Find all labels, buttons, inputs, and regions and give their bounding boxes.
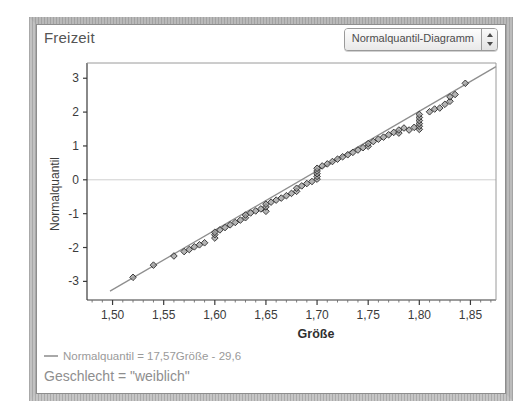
chart-type-selected-value: Normalquantil-Diagramm	[345, 29, 481, 50]
chart-type-select[interactable]: Normalquantil-Diagramm	[344, 28, 498, 51]
y-axis-tick-labels: 3210-1-2-3	[68, 71, 79, 288]
triangle-down-icon	[487, 42, 493, 46]
svg-text:-2: -2	[68, 241, 79, 255]
svg-text:1,65: 1,65	[254, 308, 278, 322]
y-axis-title: Normalquantil	[48, 157, 62, 231]
legend-equation-label: Normalquantil = 17,57Größe - 29,6	[63, 350, 241, 362]
svg-text:-3: -3	[68, 274, 79, 288]
svg-text:1,80: 1,80	[408, 308, 432, 322]
page-title: Freizeit	[44, 29, 95, 46]
svg-text:1,55: 1,55	[152, 308, 176, 322]
svg-text:0: 0	[72, 173, 79, 187]
svg-text:1,60: 1,60	[203, 308, 227, 322]
legend-line-swatch	[44, 355, 58, 357]
plot-frame	[87, 63, 496, 300]
group-annotation-label: Geschlecht = "weiblich"	[44, 368, 190, 384]
svg-text:3: 3	[72, 71, 79, 85]
x-axis-tick-labels: 1,501,551,601,651,701,751,801,85	[101, 308, 483, 322]
svg-text:-1: -1	[68, 207, 79, 221]
fit-line	[110, 67, 496, 292]
chart-type-stepper[interactable]	[481, 29, 497, 50]
legend: Normalquantil = 17,57Größe - 29,6	[44, 350, 241, 362]
x-axis-title: Größe	[298, 327, 335, 341]
svg-text:1,75: 1,75	[357, 308, 381, 322]
panel-header: Freizeit Normalquantil-Diagramm	[37, 25, 505, 55]
x-axis-ticks	[92, 300, 491, 305]
chart-panel: Freizeit Normalquantil-Diagramm 1,501,55…	[36, 24, 506, 394]
svg-text:1: 1	[72, 139, 79, 153]
application-window: Freizeit Normalquantil-Diagramm 1,501,55…	[0, 0, 530, 419]
svg-text:1,85: 1,85	[459, 308, 483, 322]
normal-quantile-plot[interactable]: 1,501,551,601,651,701,751,801,85 3210-1-…	[37, 55, 506, 343]
svg-text:1,70: 1,70	[305, 308, 329, 322]
svg-text:1,50: 1,50	[101, 308, 125, 322]
triangle-up-icon	[487, 33, 493, 37]
plot-area[interactable]: 1,501,551,601,651,701,751,801,85 3210-1-…	[37, 55, 506, 343]
svg-text:2: 2	[72, 105, 79, 119]
